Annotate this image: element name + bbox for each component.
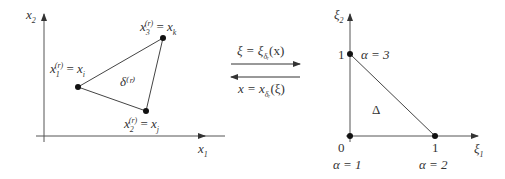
mapping-arrows xyxy=(231,64,300,77)
tick-x-1-label: 1 xyxy=(432,141,439,154)
tick-y-1-label: 1 xyxy=(338,48,345,61)
axis-x2-label: x2 xyxy=(26,8,36,21)
reference-triangle xyxy=(347,51,438,139)
alpha-3-label: α = 3 xyxy=(361,48,390,61)
vertex-3-label: x3(r) = xk xyxy=(140,20,176,33)
axis-x1-label: x1 xyxy=(198,142,208,155)
alpha-1-label: α = 1 xyxy=(333,158,362,171)
element-delta-r-label: δ⁽ʳ⁾ xyxy=(120,75,135,88)
vertex-1-label: x1(r) = xi xyxy=(50,62,85,75)
origin-label: 0 xyxy=(338,141,345,154)
element-delta-label: Δ xyxy=(372,103,380,116)
inverse-map-label: x = xδᵣ(ξ) xyxy=(238,82,285,95)
right-axes xyxy=(346,14,478,142)
forward-map-label: ξ = ξδᵣ(x) xyxy=(237,44,284,57)
alpha-2-label: α = 2 xyxy=(419,158,448,171)
vertex-2-label: x2(r) = xj xyxy=(124,117,159,130)
axis-xi1-label: ξ1 xyxy=(474,142,484,155)
axis-xi2-label: ξ2 xyxy=(334,8,344,21)
